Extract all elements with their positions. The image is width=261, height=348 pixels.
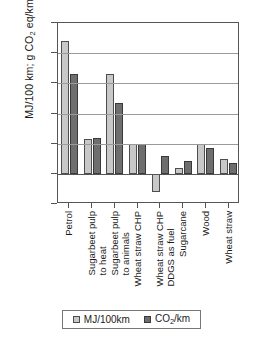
y-axis-title-sub: 2 <box>28 31 37 35</box>
x-axis-tick-mark <box>228 203 229 208</box>
category-label-line2: to heat <box>97 211 108 275</box>
x-axis-tick-mark <box>114 203 115 208</box>
bar <box>61 41 69 174</box>
y-axis-tick-mark <box>51 203 57 204</box>
x-axis-tick-mark <box>68 203 69 208</box>
bar <box>106 74 114 174</box>
y-axis-title-pre: MJ/100 km; g CO <box>23 36 35 119</box>
x-axis-category-label: Petrol <box>63 211 74 236</box>
gridline <box>58 144 238 145</box>
category-label-line1: Wheat straw CHP <box>154 211 165 287</box>
y-axis-tick-mark <box>51 173 57 174</box>
category-label-line1: Petrol <box>63 211 74 236</box>
bar <box>138 144 146 174</box>
category-label-line2: DDGS as fuel <box>165 211 176 287</box>
x-axis-category-label: Sugarbeet pulpto animals <box>109 211 131 275</box>
bar-chart: MJ/100 km; g CO2 eq/km MJ/100kmCO2/km -5… <box>0 0 261 348</box>
bar-series-container <box>58 23 238 202</box>
y-axis-tick-mark <box>51 113 57 114</box>
x-axis-category-label: Sugarcane <box>177 211 188 257</box>
gridline <box>58 83 238 84</box>
legend-swatch-icon <box>144 316 151 323</box>
x-axis-tick-mark <box>137 203 138 208</box>
bar <box>206 148 214 174</box>
x-axis-category-label: Wheat straw CHP <box>132 211 143 287</box>
x-axis-category-label: Wood <box>200 211 211 236</box>
legend-item: MJ/100km <box>73 314 130 325</box>
bar <box>220 159 228 174</box>
y-axis-tick-mark <box>51 143 57 144</box>
category-label-line1: Wheat straw CHP <box>132 211 143 287</box>
gridline <box>58 114 238 115</box>
bar <box>70 74 78 174</box>
y-axis-title-post: eq/km <box>23 0 35 31</box>
legend: MJ/100kmCO2/km <box>62 310 201 329</box>
bar <box>129 144 137 174</box>
x-axis-tick-mark <box>205 203 206 208</box>
x-axis-category-label: Wheat straw CHPDDGS as fuel <box>154 211 176 287</box>
legend-label: MJ/100km <box>84 314 130 325</box>
legend-label-subscript: 2 <box>170 317 174 326</box>
category-label-line1: Wheat straw <box>223 211 234 264</box>
legend-item: CO2/km <box>144 313 190 326</box>
x-axis-tick-mark <box>182 203 183 208</box>
category-label-line1: Wood <box>200 211 211 236</box>
x-axis-category-label: Sugarbeet pulpto heat <box>86 211 108 275</box>
gridline <box>58 53 238 54</box>
category-label-line1: Sugarbeet pulp <box>109 211 120 275</box>
bar <box>197 144 205 174</box>
bar <box>152 174 160 192</box>
x-axis-tick-mark <box>159 203 160 208</box>
y-axis-tick-mark <box>51 22 57 23</box>
category-label-line1: Sugarcane <box>177 211 188 257</box>
zero-line <box>58 174 238 175</box>
category-label-line1: Sugarbeet pulp <box>86 211 97 275</box>
plot-area <box>57 22 239 203</box>
x-axis-tick-mark <box>91 203 92 208</box>
legend-swatch-icon <box>73 316 80 323</box>
bar <box>184 161 192 174</box>
x-axis-category-label: Wheat straw <box>223 211 234 264</box>
category-label-line2: to animals <box>120 211 131 275</box>
bar <box>229 163 237 174</box>
y-axis-tick-mark <box>51 52 57 53</box>
y-axis-tick-mark <box>51 82 57 83</box>
y-axis-title: MJ/100 km; g CO2 eq/km <box>23 0 37 149</box>
bar <box>161 156 169 174</box>
legend-label: CO2/km <box>155 313 190 326</box>
